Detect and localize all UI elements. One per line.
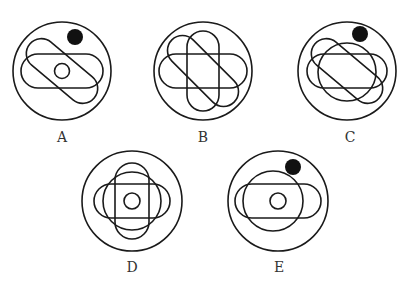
inner-circle (55, 64, 70, 79)
figure-options-diagram: A B C D E (0, 0, 415, 282)
figure-e[interactable] (228, 151, 328, 251)
figure-a[interactable] (13, 22, 111, 120)
horizontal-capsule (307, 54, 387, 88)
black-dot (285, 159, 301, 175)
outer-circle (154, 22, 252, 120)
outer-circle (82, 151, 182, 251)
diagonal-capsule (161, 29, 244, 112)
figure-label-a: A (56, 129, 68, 145)
outer-circle (13, 22, 111, 120)
vertical-capsule (187, 31, 219, 111)
medium-circle (243, 171, 303, 231)
figure-label-d: D (126, 259, 137, 275)
figure-label-c: C (345, 129, 356, 145)
figure-b[interactable] (154, 22, 252, 120)
figure-d[interactable] (82, 151, 182, 251)
figure-label-e: E (274, 259, 284, 275)
figure-c[interactable] (298, 22, 396, 120)
black-dot (352, 26, 368, 42)
black-dot (67, 29, 83, 45)
horizontal-capsule (235, 184, 321, 218)
inner-circle (124, 193, 140, 209)
medium-circle (103, 172, 161, 230)
horizontal-capsule (159, 54, 247, 88)
figure-label-b: B (198, 129, 208, 145)
horizontal-capsule (21, 54, 103, 88)
outer-circle (298, 22, 396, 120)
inner-circle (270, 193, 286, 209)
diagonal-capsule (20, 33, 104, 110)
